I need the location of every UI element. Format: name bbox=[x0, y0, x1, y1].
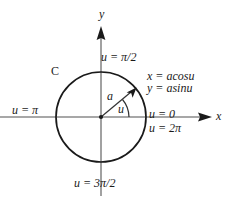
param-label-u-half-pi: u = π/2 bbox=[101, 51, 136, 63]
equation-y: y = asinu bbox=[147, 82, 192, 94]
y-axis-label: y bbox=[99, 8, 104, 20]
y-axis-arrowhead bbox=[97, 26, 106, 40]
x-axis-arrowhead bbox=[198, 113, 212, 122]
curve-label-c: C bbox=[51, 65, 59, 77]
angle-label-u: u bbox=[118, 103, 124, 115]
origin-dot bbox=[99, 115, 103, 119]
radius-label-a: a bbox=[107, 90, 113, 102]
parametric-circle-figure: y x u = π/2 u = π u = 0 u = 2π u = 3π/2 … bbox=[0, 0, 234, 203]
param-label-u-zero: u = 0 bbox=[149, 108, 175, 120]
param-label-u-three-half-pi: u = 3π/2 bbox=[74, 177, 115, 189]
x-axis-label: x bbox=[216, 110, 221, 122]
radius-vector-arrowhead bbox=[127, 87, 137, 97]
diagram-canvas bbox=[0, 0, 234, 203]
param-label-u-pi: u = π bbox=[12, 104, 38, 116]
param-label-u-two-pi: u = 2π bbox=[149, 122, 181, 134]
